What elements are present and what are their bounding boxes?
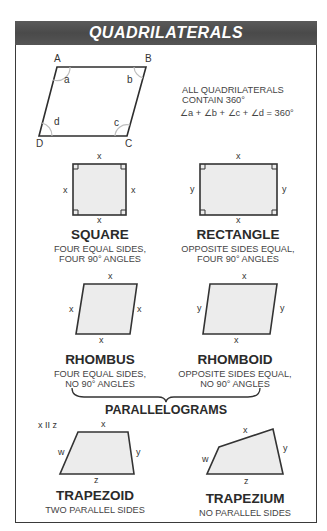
side-label: x <box>99 336 104 345</box>
side-label: x <box>63 186 68 195</box>
angle-label-d: d <box>54 117 60 127</box>
shapes-diagram <box>0 0 327 531</box>
side-label: x <box>236 152 241 161</box>
parallelograms-brace <box>72 388 260 402</box>
parallelograms-label: PARALLELOGRAMS <box>96 404 236 417</box>
side-label: y <box>190 185 195 194</box>
vertex-label-a: A <box>54 54 61 64</box>
side-label: x <box>236 216 241 225</box>
trapezoid-shape <box>60 432 134 474</box>
rhombus-shape <box>76 284 137 334</box>
side-label: z <box>244 477 249 486</box>
rectangle-name: RECTANGLE <box>168 228 308 242</box>
trapezoid-name: TRAPEZOID <box>25 489 165 503</box>
rectangle-desc-2: FOUR 90° ANGLES <box>163 254 313 265</box>
rectangle-shape <box>200 164 277 215</box>
trapezium-shape <box>207 429 283 474</box>
trapezium-name: TRAPEZIUM <box>175 492 315 506</box>
side-label: x <box>101 420 106 429</box>
square-desc-2: FOUR 90° ANGLES <box>25 254 175 265</box>
side-label: x <box>97 216 102 225</box>
side-label: y <box>280 304 285 313</box>
side-label: x <box>137 305 142 314</box>
square-shape <box>73 164 126 215</box>
side-label: x <box>234 336 239 345</box>
rhomboid-desc-1: OPPOSITE SIDES EQUAL, <box>160 369 310 380</box>
parallel-note: x II z <box>38 421 57 430</box>
square-name: SQUARE <box>30 228 170 242</box>
angle-label-a: a <box>64 75 70 85</box>
square-desc-1: FOUR EQUAL SIDES, <box>25 244 175 255</box>
side-label: x <box>97 152 102 161</box>
rhombus-desc-1: FOUR EQUAL SIDES, <box>25 369 175 380</box>
vertex-label-c: C <box>125 139 132 149</box>
angle-label-c: c <box>114 118 119 128</box>
side-label: x <box>108 272 113 281</box>
side-label: y <box>136 448 141 457</box>
rhombus-name: RHOMBUS <box>30 353 170 367</box>
trapezium-desc: NO PARALLEL SIDES <box>170 508 320 519</box>
angle-label-b: b <box>127 75 133 85</box>
rhomboid-name: RHOMBOID <box>165 353 305 367</box>
side-label: x <box>242 272 247 281</box>
sum-note-line1: ALL QUADRILATERALS <box>182 85 284 96</box>
angle-sum-formula: ∠a + ∠b + ∠c + ∠d = 360° <box>180 108 294 119</box>
vertex-label-b: B <box>145 54 152 64</box>
side-label: y <box>197 304 202 313</box>
rectangle-desc-1: OPPOSITE SIDES EQUAL, <box>163 244 313 255</box>
side-label: y <box>282 185 287 194</box>
side-label: y <box>283 444 288 453</box>
side-label: z <box>94 476 99 485</box>
vertex-label-d: D <box>36 139 43 149</box>
side-label: x <box>131 186 136 195</box>
rhomboid-shape <box>203 284 277 334</box>
rhombus-desc-2: NO 90° ANGLES <box>25 379 175 390</box>
side-label: w <box>202 455 209 464</box>
sum-note-line2: CONTAIN 360° <box>182 95 245 106</box>
trapezoid-desc: TWO PARALLEL SIDES <box>20 505 170 516</box>
side-label: x <box>69 305 74 314</box>
side-label: w <box>58 448 65 457</box>
side-label: x <box>243 426 248 435</box>
rhomboid-desc-2: NO 90° ANGLES <box>160 379 310 390</box>
